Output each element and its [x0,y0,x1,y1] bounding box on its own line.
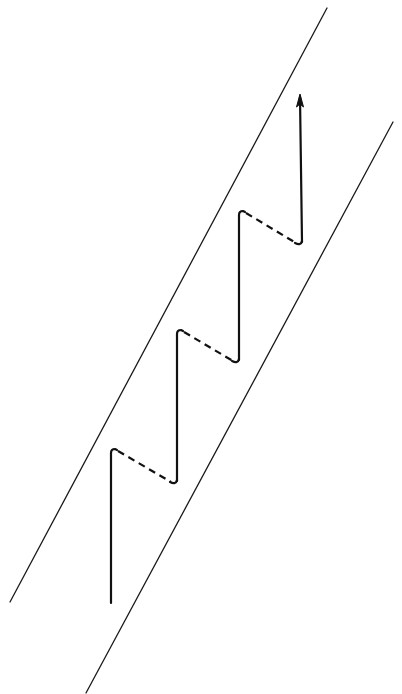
dashed-segment-1 [118,451,171,482]
channel-boundaries [10,8,393,693]
final-arrow-shaft [300,97,302,242]
left-boundary-line [10,8,327,602]
diagram-canvas [0,0,402,694]
zigzag-path [111,94,304,603]
dashed-segment-3 [246,213,296,243]
solid-segment-2 [177,330,183,481]
solid-segment-3 [239,211,245,360]
solid-segment-1 [111,449,117,603]
dashed-segment-2 [184,332,233,361]
right-boundary-line [86,122,393,693]
